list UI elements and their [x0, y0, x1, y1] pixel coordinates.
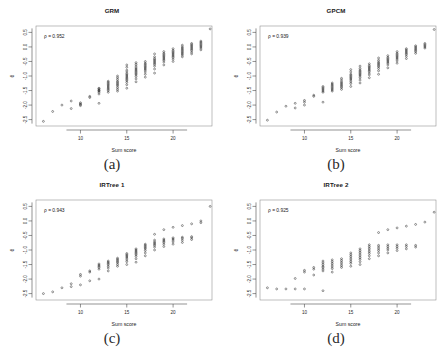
data-point	[331, 271, 333, 273]
data-point	[144, 73, 146, 75]
x-axis-title: Sum score	[336, 321, 361, 327]
x-tick-label: 10	[78, 136, 84, 141]
data-point	[396, 250, 398, 252]
y-tick-label: 0.0	[23, 43, 28, 50]
panel-letter: (c)	[0, 330, 224, 347]
y-axis-title: θ	[9, 74, 15, 77]
figure-grid: GRM 101520-2.5-2.0-1.5-1.0-0.50.00.5Sum …	[0, 0, 448, 348]
data-point	[135, 81, 137, 83]
data-point	[181, 241, 183, 243]
plot-frame	[260, 26, 436, 126]
data-point	[405, 225, 407, 227]
data-point	[154, 249, 156, 251]
data-point	[350, 86, 352, 88]
data-point	[70, 286, 72, 288]
data-point	[126, 87, 128, 89]
data-point	[144, 76, 146, 78]
y-tick-label: -2.5	[247, 115, 252, 123]
data-points	[42, 205, 211, 294]
panel-letter: (d)	[224, 330, 448, 347]
data-point	[368, 255, 370, 257]
y-tick-label: 0.5	[23, 29, 28, 36]
data-point	[126, 264, 128, 266]
data-point	[415, 223, 417, 225]
data-points	[266, 211, 435, 291]
x-tick-label: 15	[124, 310, 130, 315]
scatter-plot-d: 101520-2.5-2.0-1.5-1.0-0.50.00.5Sum scor…	[224, 174, 448, 348]
y-tick-label: -0.5	[247, 231, 252, 239]
data-point	[172, 243, 174, 245]
data-point	[126, 66, 128, 68]
y-tick-label: 0.5	[247, 203, 252, 210]
panel-letter: (b)	[224, 156, 448, 173]
x-tick-label: 15	[124, 136, 130, 141]
y-tick-label: -1.0	[23, 246, 28, 254]
plot-frame	[36, 26, 212, 126]
y-tick-label: -2.0	[247, 101, 252, 109]
data-point	[378, 232, 380, 234]
data-point	[304, 104, 306, 106]
data-point	[359, 261, 361, 263]
data-point	[424, 221, 426, 223]
correlation-annotation: ρ = 0.939	[268, 34, 289, 39]
data-point	[359, 79, 361, 81]
data-point	[387, 252, 389, 254]
scatter-plot-b: 101520-2.5-2.0-1.5-1.0-0.50.00.5Sum scor…	[224, 0, 448, 174]
data-point	[433, 29, 435, 31]
data-point	[405, 248, 407, 250]
x-tick-label: 15	[348, 136, 354, 141]
x-tick-label: 20	[171, 136, 177, 141]
data-point	[126, 84, 128, 86]
panel-a: GRM 101520-2.5-2.0-1.5-1.0-0.50.00.5Sum …	[0, 0, 224, 174]
scatter-plot-a: 101520-2.5-2.0-1.5-1.0-0.50.00.5Sum scor…	[0, 0, 224, 174]
y-tick-label: 0.0	[247, 43, 252, 50]
data-point	[378, 73, 380, 75]
y-tick-label: -2.0	[247, 275, 252, 283]
data-point	[294, 278, 296, 280]
data-point	[350, 265, 352, 267]
data-point	[144, 255, 146, 257]
y-tick-label: -0.5	[23, 57, 28, 65]
data-point	[98, 102, 100, 104]
data-point	[276, 288, 278, 290]
data-point	[144, 252, 146, 254]
y-tick-label: 0.0	[23, 217, 28, 224]
data-points	[42, 28, 211, 122]
data-point	[172, 61, 174, 63]
data-point	[135, 258, 137, 260]
data-point	[350, 71, 352, 73]
correlation-annotation: ρ = 0.925	[268, 208, 289, 213]
data-point	[387, 67, 389, 69]
x-axis-title: Sum score	[336, 147, 361, 153]
data-point	[209, 205, 211, 207]
correlation-annotation: ρ = 0.952	[44, 34, 65, 39]
y-tick-label: -1.5	[23, 86, 28, 94]
data-point	[154, 53, 156, 55]
data-point	[322, 101, 324, 103]
data-point	[191, 223, 193, 225]
data-point	[107, 270, 109, 272]
panel-c: IRTree 1 101520-2.5-2.0-1.5-1.0-0.50.00.…	[0, 174, 224, 348]
data-point	[378, 252, 380, 254]
data-point	[378, 255, 380, 257]
data-point	[61, 287, 63, 289]
data-point	[294, 102, 296, 104]
data-point	[368, 77, 370, 79]
data-point	[304, 288, 306, 290]
data-point	[126, 64, 128, 66]
y-axis-title: θ	[233, 74, 239, 77]
y-tick-label: -1.0	[23, 72, 28, 80]
data-point	[70, 100, 72, 102]
data-point	[359, 82, 361, 84]
y-tick-label: -1.5	[247, 260, 252, 268]
x-tick-label: 10	[78, 310, 84, 315]
data-point	[163, 246, 165, 248]
data-point	[70, 108, 72, 110]
data-point	[154, 72, 156, 74]
y-tick-label: -2.5	[23, 289, 28, 297]
x-tick-label: 20	[395, 310, 401, 315]
data-point	[209, 28, 211, 30]
data-point	[322, 290, 324, 292]
data-point	[266, 287, 268, 289]
data-point	[80, 284, 82, 286]
